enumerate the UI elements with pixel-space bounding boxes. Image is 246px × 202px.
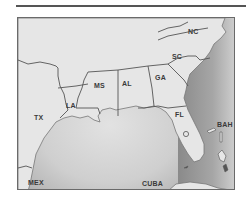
lake-okeechobee [183,131,188,136]
map-svg [18,18,235,190]
label-georgia: GA [155,74,166,81]
label-louisiana: LA [66,102,76,109]
label-florida: FL [175,111,184,118]
map-frame: NC SC GA AL MS LA TX FL BAH MEX CUBA [17,17,235,190]
label-alabama: AL [122,80,132,87]
label-cuba: CUBA [142,180,163,187]
label-mexico: MEX [28,179,44,186]
header-rule [16,5,246,7]
label-texas: TX [34,114,43,121]
bahamas-island [220,132,222,142]
label-south-carolina: SC [172,53,182,60]
label-mississippi: MS [94,82,105,89]
label-north-carolina: NC [188,28,199,35]
label-bahamas: BAH [217,121,233,128]
